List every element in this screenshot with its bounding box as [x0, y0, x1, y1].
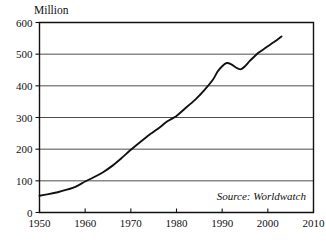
- y-tick-label: 100: [16, 175, 33, 187]
- x-tick-label: 1960: [74, 217, 97, 229]
- x-axis-tick-labels: 1950196019701980199020002010: [29, 217, 326, 229]
- y-tick-label: 200: [16, 143, 33, 155]
- y-tick-label: 600: [16, 17, 33, 29]
- y-axis-tick-labels: 0100200300400500600: [16, 17, 33, 219]
- x-tick-label: 2000: [257, 217, 280, 229]
- grid-lines: [40, 54, 314, 181]
- chart-container: 0100200300400500600 19501960197019801990…: [0, 0, 326, 243]
- line-chart: 0100200300400500600 19501960197019801990…: [0, 0, 326, 243]
- source-annotation: Source: Worldwatch: [217, 190, 307, 202]
- y-tick-label: 500: [16, 48, 33, 60]
- x-tick-label: 1980: [166, 217, 189, 229]
- y-tick-label: 300: [16, 112, 33, 124]
- x-tick-label: 2010: [303, 217, 326, 229]
- x-tick-label: 1950: [29, 217, 52, 229]
- y-axis-unit-label: Million: [34, 4, 69, 16]
- x-tick-label: 1970: [120, 217, 143, 229]
- y-tick-label: 400: [16, 80, 33, 92]
- x-tick-label: 1990: [211, 217, 234, 229]
- data-series-line: [40, 36, 282, 195]
